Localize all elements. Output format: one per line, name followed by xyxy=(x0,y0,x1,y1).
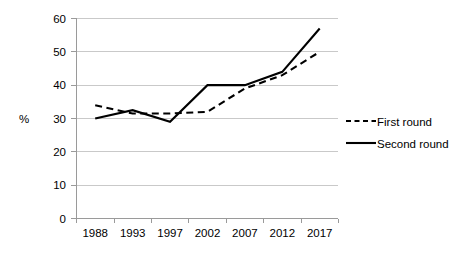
legend-item-first-round[interactable]: First round xyxy=(346,116,432,128)
y-tick-labels: 60 50 40 30 20 10 0 xyxy=(53,13,66,225)
y-tick-label: 20 xyxy=(53,146,66,158)
y-axis-title: % xyxy=(19,113,29,125)
x-tick-label: 2007 xyxy=(232,227,258,239)
y-tick-label: 10 xyxy=(53,179,66,191)
x-tick-label: 2002 xyxy=(195,227,221,239)
y-tick-label: 30 xyxy=(53,113,66,125)
y-tick-label: 60 xyxy=(53,13,66,25)
series-line-first-round xyxy=(95,52,320,114)
x-tick-labels: 1988 1993 1997 2002 2007 2012 2017 xyxy=(82,227,332,239)
y-tick-label: 50 xyxy=(53,46,66,58)
gridlines-y xyxy=(76,19,338,186)
y-tickmarks xyxy=(71,19,76,219)
legend-label: First round xyxy=(377,116,432,128)
x-tick-label: 2012 xyxy=(270,227,296,239)
chart-container: 60 50 40 30 20 10 0 % 1988 1993 1997 200… xyxy=(0,0,468,266)
legend-label: Second round xyxy=(377,138,449,150)
legend-item-second-round[interactable]: Second round xyxy=(346,138,449,150)
x-tick-label: 1997 xyxy=(157,227,183,239)
chart-legend: First round Second round xyxy=(346,116,449,150)
series-line-second-round xyxy=(95,29,320,122)
line-chart: 60 50 40 30 20 10 0 % 1988 1993 1997 200… xyxy=(0,0,468,266)
x-tick-label: 1993 xyxy=(120,227,146,239)
x-tick-label: 2017 xyxy=(307,227,333,239)
y-tick-label: 0 xyxy=(60,213,66,225)
y-tick-label: 40 xyxy=(53,79,66,91)
x-tick-label: 1988 xyxy=(82,227,108,239)
x-tickmarks xyxy=(77,219,339,224)
